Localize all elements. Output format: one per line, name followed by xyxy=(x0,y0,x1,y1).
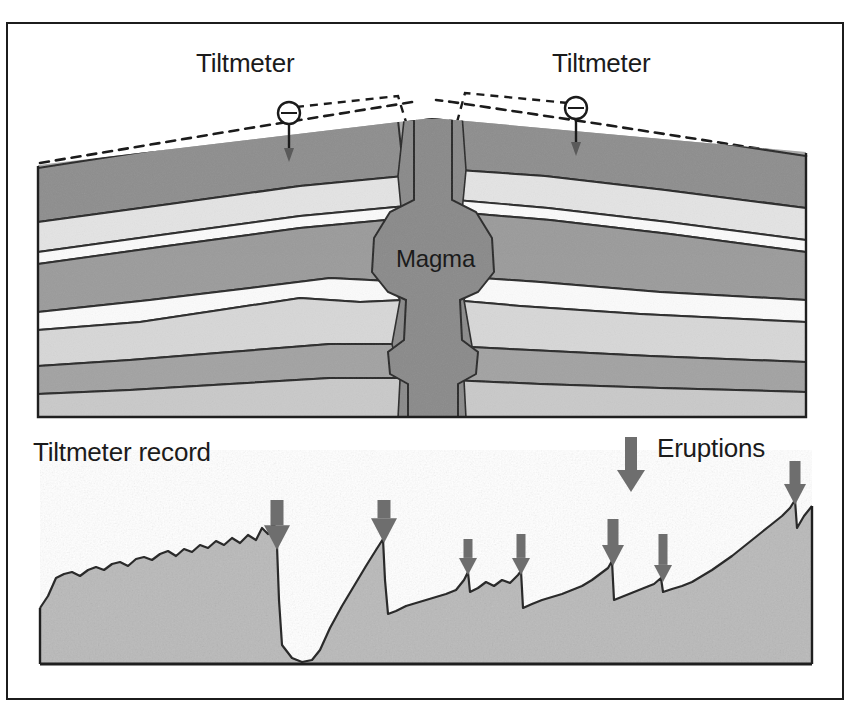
figure-artwork xyxy=(0,0,852,707)
figure-root: Tiltmeter Tiltmeter Magma Tiltmeter reco… xyxy=(0,0,852,707)
label-tiltmeter-record: Tiltmeter record xyxy=(33,437,211,468)
label-tiltmeter-left: Tiltmeter xyxy=(196,48,294,79)
label-eruptions: Eruptions xyxy=(657,433,765,464)
tiltmeter-record-chart xyxy=(40,437,812,665)
label-magma: Magma xyxy=(396,245,475,273)
label-tiltmeter-right: Tiltmeter xyxy=(552,48,650,79)
